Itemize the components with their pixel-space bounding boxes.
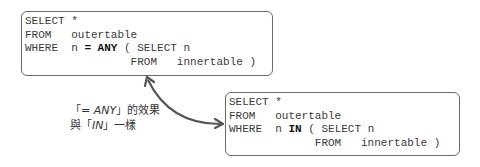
double-arrow-icon <box>0 0 480 167</box>
annotation-text: 「= ANY」的效果 與「IN」一樣 <box>70 103 160 133</box>
